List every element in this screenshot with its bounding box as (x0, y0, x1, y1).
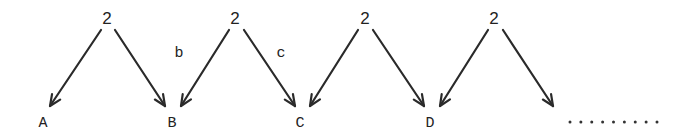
ellipsis-dot (656, 121, 659, 124)
zigzag-arrow-diagram: 2222 ABCD bc (0, 0, 692, 132)
ellipsis-dot (634, 121, 637, 124)
arrow (181, 30, 229, 106)
ellipsis-dot (623, 121, 626, 124)
source-node-label: 2 (360, 9, 369, 28)
arrow (373, 30, 424, 106)
arrow-shaft (440, 30, 488, 106)
ellipsis-dot (645, 121, 648, 124)
edge-labels: bc (174, 45, 285, 62)
target-node-label: B (167, 115, 176, 132)
target-nodes: ABCD (38, 115, 434, 132)
arrow-shaft (503, 30, 553, 106)
arrow (440, 30, 488, 106)
edge-label: c (276, 45, 285, 62)
arrow-shaft (244, 30, 295, 106)
arrow-shaft (181, 30, 229, 106)
arrow (244, 30, 295, 106)
arrow (310, 30, 358, 106)
source-node-label: 2 (102, 9, 111, 28)
arrow-shaft (310, 30, 358, 106)
target-node-label: C (295, 115, 304, 132)
source-node-label: 2 (230, 9, 239, 28)
arrows (50, 30, 553, 106)
source-nodes: 2222 (102, 9, 498, 28)
arrow-shaft (115, 30, 165, 106)
arrow (115, 30, 165, 106)
ellipsis-dot (612, 121, 615, 124)
arrow-shaft (373, 30, 424, 106)
target-node-label: D (425, 115, 434, 132)
arrow (503, 30, 553, 106)
ellipsis-dot (579, 121, 582, 124)
continuation-ellipsis (569, 121, 659, 124)
edge-label: b (174, 45, 183, 62)
ellipsis-dot (601, 121, 604, 124)
ellipsis-dot (569, 121, 572, 124)
arrow-shaft (50, 30, 101, 106)
target-node-label: A (38, 115, 47, 132)
ellipsis-dot (590, 121, 593, 124)
arrow (50, 30, 101, 106)
source-node-label: 2 (489, 9, 498, 28)
